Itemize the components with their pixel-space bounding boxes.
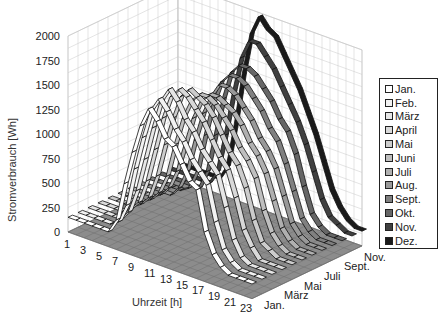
legend-item: Jan. <box>385 82 437 96</box>
chart-legend: Jan.Feb.MärzAprilMaiJuniJuliAug.Sept.Okt… <box>379 78 438 249</box>
y-tick: Juli <box>324 270 341 282</box>
legend-item: Aug. <box>385 179 437 193</box>
chart-3d-ribbon: 0250500750100012501500175020001357911131… <box>0 0 443 333</box>
legend-swatch-icon <box>385 181 393 189</box>
legend-swatch-icon <box>385 195 393 203</box>
legend-swatch-icon <box>385 154 393 162</box>
legend-label: April <box>395 124 417 136</box>
legend-item: Feb. <box>385 96 437 110</box>
legend-label: Juli <box>395 166 412 178</box>
legend-swatch-icon <box>385 112 393 120</box>
y-tick: Nov. <box>364 251 386 263</box>
legend-item: Juni <box>385 151 437 165</box>
legend-label: Okt. <box>395 207 415 219</box>
legend-item: Juli <box>385 165 437 179</box>
legend-label: Aug. <box>395 179 418 191</box>
legend-label: Juni <box>395 152 415 164</box>
z-tick: 1000 <box>36 128 60 140</box>
z-tick: 1250 <box>36 104 60 116</box>
legend-item: Dez. <box>385 234 437 248</box>
x-tick: 5 <box>96 250 102 262</box>
x-tick: 21 <box>224 296 236 308</box>
x-tick: 13 <box>160 273 172 285</box>
x-tick: 15 <box>176 279 188 291</box>
legend-swatch-icon <box>385 209 393 217</box>
legend-item: Nov. <box>385 220 437 234</box>
legend-swatch-icon <box>385 85 393 93</box>
x-tick: 23 <box>240 302 252 314</box>
legend-item: Sept. <box>385 192 437 206</box>
legend-label: Sept. <box>395 193 421 205</box>
legend-label: Jan. <box>395 83 416 95</box>
legend-swatch-icon <box>385 99 393 107</box>
x-tick: 17 <box>192 284 204 296</box>
legend-label: Mai <box>395 138 413 150</box>
legend-label: Nov. <box>395 221 417 233</box>
x-tick: 11 <box>144 267 155 279</box>
legend-label: Feb. <box>395 97 417 109</box>
z-tick: 250 <box>42 202 60 214</box>
x-axis-label: Uhrzeit [h] <box>132 296 182 308</box>
z-tick: 2000 <box>36 30 60 42</box>
legend-swatch-icon <box>385 140 393 148</box>
legend-item: März <box>385 110 437 124</box>
legend-swatch-icon <box>385 168 393 176</box>
z-tick: 0 <box>54 226 60 238</box>
legend-label: Dez. <box>395 235 418 247</box>
x-tick: 3 <box>80 244 86 256</box>
legend-label: März <box>395 110 419 122</box>
z-tick: 1750 <box>36 55 60 67</box>
z-tick: 750 <box>42 153 60 165</box>
x-tick: 9 <box>128 261 134 273</box>
legend-swatch-icon <box>385 237 393 245</box>
legend-swatch-icon <box>385 126 393 134</box>
legend-item: Mai <box>385 137 437 151</box>
x-tick: 1 <box>64 238 70 250</box>
x-tick: 19 <box>208 290 220 302</box>
legend-item: Okt. <box>385 206 437 220</box>
y-tick: Jan. <box>264 299 285 311</box>
x-tick: 7 <box>112 255 118 267</box>
z-axis-label: Stromverbrauch [Wh] <box>6 118 18 222</box>
z-tick: 500 <box>42 177 60 189</box>
y-tick: Mai <box>304 280 322 292</box>
z-tick: 1500 <box>36 79 60 91</box>
legend-item: April <box>385 123 437 137</box>
legend-swatch-icon <box>385 223 393 231</box>
